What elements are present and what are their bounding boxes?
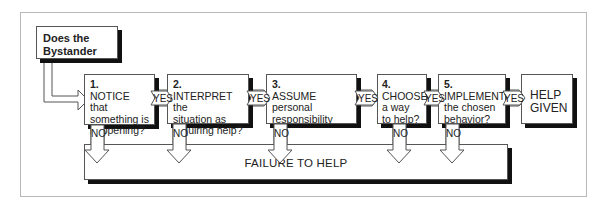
step-2-line1: INTERPRET the [173, 90, 232, 114]
start-box: Does the Bystander [36, 26, 118, 59]
step-1-line1: NOTICE that [90, 90, 130, 114]
step-5-line1: IMPLEMENT [444, 90, 505, 102]
help-given-box: HELP GIVEN [521, 74, 573, 124]
step-3-line2: personal [272, 101, 312, 113]
help-given-line1: HELP [530, 88, 561, 102]
step-3-line3: responsibility [272, 113, 333, 125]
step-4-choose: 4. CHOOSE a way to help? [377, 74, 427, 124]
no-label-1: NO [91, 128, 106, 139]
help-given-line2: GIVEN [530, 101, 567, 115]
yes-label-4: YES [425, 93, 445, 104]
yes-label-5: YES [504, 93, 524, 104]
step-2-line2: situation as [173, 113, 226, 125]
failure-to-help-bar: FAILURE TO HELP [84, 144, 508, 180]
start-line2: Bystander [43, 45, 97, 57]
step-5-implement: 5. IMPLEMENT the chosen behavior? [438, 74, 506, 124]
yes-label-1: YES [153, 93, 173, 104]
step-3-line1: ASSUME [272, 90, 316, 102]
start-line1: Does the [43, 32, 89, 44]
no-label-3: NO [274, 128, 289, 139]
step-3-assume: 3. ASSUME personal responsibility [266, 74, 357, 124]
yes-label-3: YES [358, 93, 378, 104]
step-5-line2: the chosen [444, 101, 495, 113]
no-label-4: NO [393, 128, 408, 139]
step-1-line2: something is [90, 113, 149, 125]
step-5-line3: behavior? [444, 113, 490, 125]
no-label-2: NO [173, 128, 188, 139]
yes-label-2: YES [250, 93, 270, 104]
failure-to-help-label: FAILURE TO HELP [85, 157, 507, 169]
step-1-notice: 1. NOTICE that something is happening? [84, 74, 155, 125]
step-4-line2: a way [382, 101, 409, 113]
step-2-interpret: 2. INTERPRET the situation as requiring … [167, 74, 249, 124]
step-4-line3: to help? [382, 113, 419, 125]
no-label-5: NO [446, 128, 461, 139]
step-4-line1: CHOOSE [382, 90, 428, 102]
